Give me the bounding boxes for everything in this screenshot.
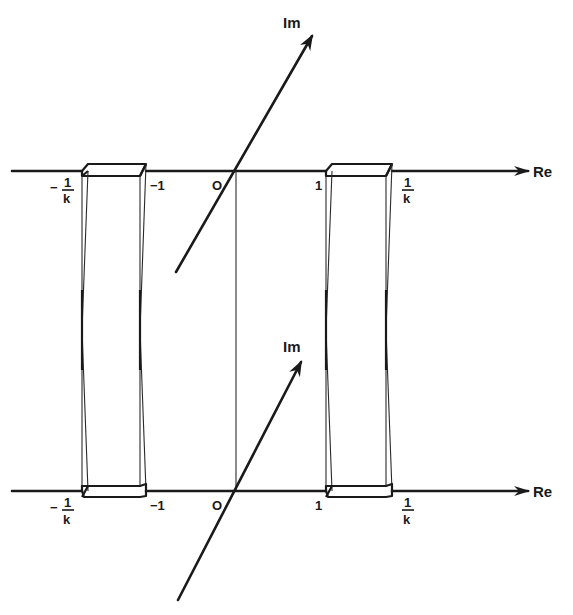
upper-right-tube-cap <box>326 164 392 176</box>
lower-re-label: Re <box>533 483 552 500</box>
upper-origin-label: O <box>212 178 222 193</box>
upper-neg-one-label: −1 <box>150 178 165 193</box>
lower-im-label: Im <box>283 338 301 355</box>
upper-one-label: 1 <box>315 178 322 193</box>
lower-neg-inv-k-num: 1 <box>64 495 71 510</box>
right-cut-tube <box>326 164 392 491</box>
upper-neg-inv-k-sign: − <box>50 180 58 195</box>
upper-inv-k-den: k <box>403 191 411 206</box>
upper-sheet: Re Im − 1 k −1 O 1 1 k <box>12 14 552 272</box>
upper-inv-k-num: 1 <box>404 175 411 190</box>
lower-sheet: Re Im − 1 k −1 O 1 1 k <box>12 338 552 600</box>
upper-imag-axis <box>176 36 312 272</box>
upper-im-label: Im <box>283 14 301 31</box>
upper-left-tube-cap <box>82 164 146 176</box>
upper-re-label: Re <box>533 163 552 180</box>
lower-neg-inv-k-sign: − <box>50 500 58 515</box>
lower-inv-k-num: 1 <box>404 495 411 510</box>
lower-imag-axis <box>178 362 301 600</box>
lower-right-tube-cap <box>326 484 392 497</box>
lower-origin-label: O <box>212 498 222 513</box>
riemann-surface-diagram: Re Im − 1 k −1 O 1 1 k <box>0 0 573 615</box>
lower-neg-inv-k-den: k <box>63 512 71 527</box>
upper-neg-inv-k-den: k <box>63 191 71 206</box>
lower-inv-k-den: k <box>403 512 411 527</box>
upper-neg-inv-k-num: 1 <box>64 175 71 190</box>
lower-one-label: 1 <box>315 498 322 513</box>
lower-left-tube-cap <box>82 484 146 497</box>
left-cut-tube <box>82 164 146 491</box>
lower-neg-one-label: −1 <box>150 498 165 513</box>
